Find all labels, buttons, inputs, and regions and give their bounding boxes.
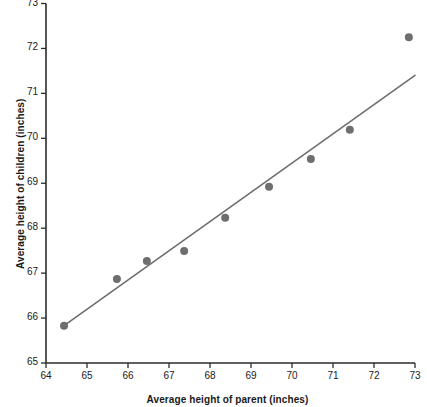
data-point	[180, 247, 188, 255]
data-point	[60, 322, 68, 330]
tick-marks	[41, 4, 415, 369]
data-point	[113, 275, 121, 283]
x-tick-label: 72	[362, 370, 386, 381]
data-point	[221, 214, 229, 222]
x-tick-label: 65	[75, 370, 99, 381]
axes	[46, 4, 415, 364]
data-point	[405, 33, 413, 41]
data-point	[307, 155, 315, 163]
data-point	[143, 257, 151, 265]
x-tick-label: 68	[198, 370, 222, 381]
x-tick-label: 69	[239, 370, 263, 381]
x-tick-label: 73	[403, 370, 427, 381]
data-points	[60, 33, 413, 329]
x-tick-label: 66	[116, 370, 140, 381]
x-tick-label: 64	[34, 370, 58, 381]
x-tick-label: 71	[321, 370, 345, 381]
x-axis-title: Average height of parent (inches)	[0, 394, 427, 405]
plot-canvas	[0, 0, 427, 407]
regression-line	[64, 75, 415, 325]
y-axis-title: Average height of children (inches)	[14, 4, 28, 364]
x-tick-label: 70	[280, 370, 304, 381]
x-tick-label: 67	[157, 370, 181, 381]
data-point	[265, 183, 273, 191]
data-point	[346, 126, 354, 134]
scatter-plot-figure: 656667686970717273 64656667686970717273 …	[0, 0, 427, 407]
trendline-path	[64, 75, 415, 325]
